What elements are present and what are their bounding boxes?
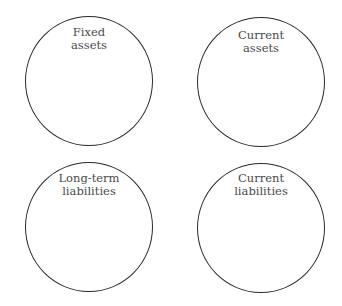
label-line: assets: [198, 42, 324, 55]
label-line: liabilities: [198, 185, 324, 198]
circle-label: Current assets: [198, 29, 324, 55]
circle-label: Long-term liabilities: [26, 172, 152, 198]
circle-current-liabilities: Current liabilities: [197, 163, 325, 293]
circle-long-term-liabilities: Long-term liabilities: [25, 162, 153, 292]
circle-label: Fixed assets: [26, 26, 152, 52]
circle-current-assets: Current assets: [197, 17, 325, 147]
circle-fixed-assets: Fixed assets: [25, 16, 153, 146]
label-line: liabilities: [26, 185, 152, 198]
label-line: assets: [26, 39, 152, 52]
circle-label: Current liabilities: [198, 172, 324, 198]
